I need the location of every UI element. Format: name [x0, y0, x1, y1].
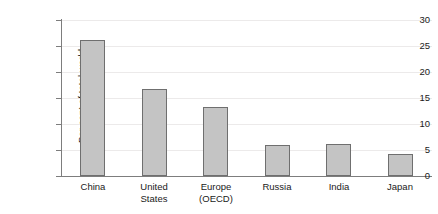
bar [326, 144, 351, 176]
y-axis-tick [56, 176, 61, 177]
x-axis-line [61, 176, 432, 177]
gridline [62, 98, 432, 99]
gridline [62, 72, 432, 73]
y-axis-tick-label: 25 [384, 41, 438, 51]
x-axis-label-line: Japan [357, 181, 438, 193]
gridline [62, 20, 432, 21]
y-axis-tick-label: 30 [384, 15, 438, 25]
gridline [62, 124, 432, 125]
y-axis-tick [56, 46, 61, 47]
y-axis-tick-label: 20 [384, 67, 438, 77]
y-axis-tick [56, 150, 61, 151]
y-axis-tick [56, 124, 61, 125]
y-axis-tick [56, 72, 61, 73]
y-axis-tick-label: 15 [384, 93, 438, 103]
bar [80, 40, 105, 176]
y-axis-line [61, 19, 62, 177]
x-axis-label: Japan [357, 181, 438, 193]
y-axis-tick [56, 20, 61, 21]
y-axis-tick [56, 98, 61, 99]
bar [142, 89, 167, 176]
gridline [62, 46, 432, 47]
bar [388, 154, 413, 176]
bar [203, 107, 228, 176]
x-axis-label-line: (OECD) [173, 193, 259, 205]
bar-chart: Per cent of total world carbon emissions… [0, 0, 438, 214]
y-axis-tick-label: 10 [384, 119, 438, 129]
gridline [62, 150, 432, 151]
bar [265, 145, 290, 176]
